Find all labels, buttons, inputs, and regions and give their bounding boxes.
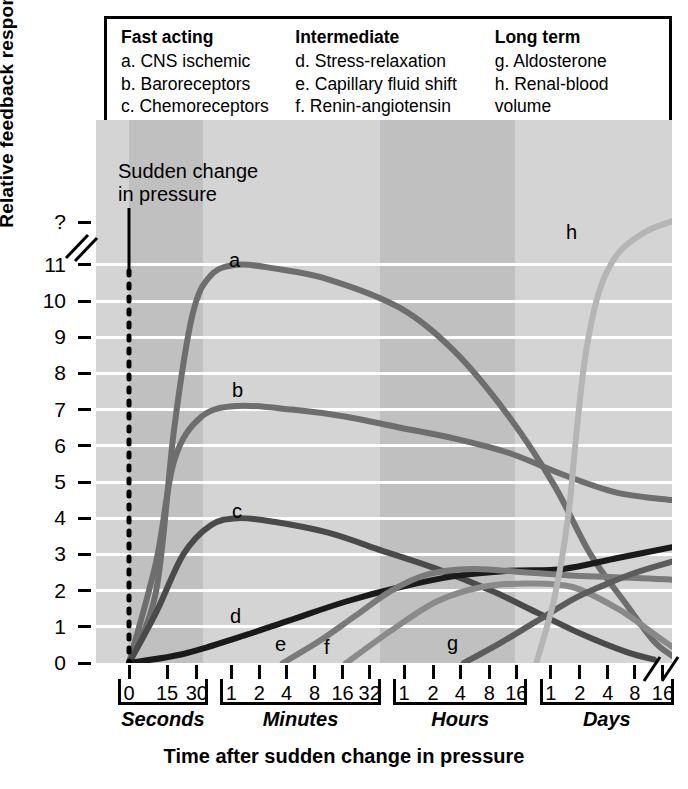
x-axis-tick-mark [633, 665, 636, 679]
x-axis-tick-mark [515, 665, 518, 679]
y-axis-break-icon [62, 232, 102, 264]
y-axis-tick-label: 6 [6, 435, 66, 456]
y-axis-tick-label: 10 [6, 290, 66, 311]
x-axis-tick-mark [432, 665, 435, 679]
x-axis-tick-mark [166, 665, 169, 679]
x-axis-tick-mark [403, 665, 406, 679]
curve-label-a: a [229, 250, 240, 270]
legend-item: b. Baroreceptors [121, 73, 295, 96]
curve-label-b: b [232, 380, 243, 400]
x-axis-tick-mark [549, 665, 552, 679]
x-axis-tick-mark [341, 665, 344, 679]
legend-item: h. Renal-blood volume [495, 73, 669, 119]
x-axis-group-box [220, 679, 380, 705]
y-axis-tick-mark [78, 221, 91, 224]
y-axis-tick-mark [78, 625, 91, 628]
legend-column-intermediate: Intermediate d. Stress-relaxation e. Cap… [295, 26, 494, 126]
y-axis-tick-label: 2 [6, 580, 66, 601]
y-axis-tick-label: 4 [6, 507, 66, 528]
x-axis-tick-mark [128, 665, 131, 679]
y-axis-tick-mark [78, 589, 91, 592]
curve-label-d: d [230, 606, 241, 626]
y-axis-tick-mark [78, 553, 91, 556]
x-axis-group-box [393, 679, 527, 705]
x-axis-tick-mark [285, 665, 288, 679]
y-axis-tick-mark [78, 300, 91, 303]
legend-heading: Intermediate [295, 26, 494, 49]
legend-item: e. Capillary fluid shift [295, 73, 494, 96]
legend-item: g. Aldosterone [495, 50, 669, 73]
y-axis-tick-label: 1 [6, 616, 66, 637]
x-axis-tick-mark [195, 665, 198, 679]
x-axis-group-box [118, 679, 208, 705]
legend-heading: Long term [495, 26, 669, 49]
y-axis-tick-label: 7 [6, 399, 66, 420]
x-axis-tick-mark [368, 665, 371, 679]
x-axis-title: Time after sudden change in pressure [0, 745, 688, 768]
x-axis-tick-mark [258, 665, 261, 679]
x-axis-break-icon [640, 655, 686, 685]
sudden-change-annotation: Sudden change in pressure [118, 160, 258, 206]
legend-item: d. Stress-relaxation [295, 50, 494, 73]
legend-box: Fast acting a. CNS ischemic b. Barorecep… [104, 16, 672, 129]
x-axis-group-label: Days [507, 708, 688, 731]
y-axis-tick-mark [78, 517, 91, 520]
y-axis-tick-label: ? [6, 211, 66, 232]
y-axis-tick-mark [78, 372, 91, 375]
curve-label-e: e [275, 634, 286, 654]
y-axis-tick-label: 8 [6, 362, 66, 383]
x-axis-tick-mark [578, 665, 581, 679]
curve-label-h: h [566, 222, 577, 242]
y-axis-tick-mark [78, 408, 91, 411]
x-axis-tick-mark [488, 665, 491, 679]
legend-heading: Fast acting [121, 26, 295, 49]
x-axis-tick-mark [313, 665, 316, 679]
y-axis-tick-mark [78, 662, 91, 665]
x-axis-tick-mark [606, 665, 609, 679]
y-axis-tick-mark [78, 336, 91, 339]
y-axis-tick-label: 11 [6, 254, 66, 275]
legend-item: f. Renin-angiotensin [295, 95, 494, 118]
y-axis-tick-label: 5 [6, 471, 66, 492]
x-axis-tick-mark [459, 665, 462, 679]
y-axis-tick-label: 3 [6, 543, 66, 564]
curve-label-c: c [232, 501, 242, 521]
legend-item: a. CNS ischemic [121, 50, 295, 73]
legend-item: c. Chemoreceptors [121, 95, 295, 118]
y-axis-tick-mark [78, 481, 91, 484]
y-axis-tick-mark [78, 444, 91, 447]
curve-label-f: f [324, 637, 330, 657]
y-axis-tick-label: 9 [6, 326, 66, 347]
legend-column-long-term: Long term g. Aldosterone h. Renal-blood … [495, 26, 669, 126]
legend-column-fast-acting: Fast acting a. CNS ischemic b. Barorecep… [121, 26, 295, 126]
x-axis-tick-mark [230, 665, 233, 679]
y-axis-tick-label: 0 [6, 652, 66, 673]
curve-label-g: g [447, 633, 458, 653]
